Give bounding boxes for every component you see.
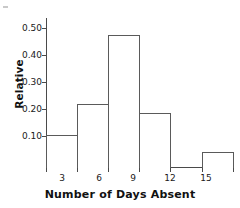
histogram-bar xyxy=(77,104,109,168)
y-tick-label: 0.50 xyxy=(16,24,42,33)
x-tick-label-group: 3 6 9 12 15 xyxy=(46,173,234,187)
plot-area xyxy=(46,18,234,168)
y-tick-mark xyxy=(42,55,46,56)
histogram-bar xyxy=(46,135,78,168)
y-tick-mark xyxy=(42,109,46,110)
x-tick-label: 12 xyxy=(160,173,180,183)
histogram-bar xyxy=(202,152,234,168)
y-tick-label: 0.40 xyxy=(16,51,42,60)
y-tick-label-group: 0.50 0.40 0.30 0.20 0.10 xyxy=(14,0,42,208)
x-tick-mark xyxy=(170,168,171,172)
y-tick-mark xyxy=(42,82,46,83)
x-tick-label: 9 xyxy=(123,173,143,183)
x-tick-mark xyxy=(77,168,78,172)
y-tick-label: 0.30 xyxy=(16,78,42,87)
x-tick-label: 15 xyxy=(196,173,216,183)
histogram-bar xyxy=(139,113,171,168)
y-tick-label: 0.10 xyxy=(16,132,42,141)
x-tick-mark xyxy=(108,168,109,172)
x-axis-title: Number of Days Absent xyxy=(0,188,240,201)
histogram-screenshot: Relative 0.50 0.40 0.30 0.20 0.10 xyxy=(0,0,240,208)
x-tick-mark xyxy=(139,168,140,172)
y-tick-label: 0.20 xyxy=(16,105,42,114)
x-tick-mark xyxy=(233,168,234,172)
x-tick-mark xyxy=(202,168,203,172)
y-tick-mark xyxy=(42,28,46,29)
x-tick-label: 6 xyxy=(89,173,109,183)
x-tick-mark xyxy=(46,168,47,172)
x-tick-label: 3 xyxy=(52,173,72,183)
crop-mark xyxy=(3,6,8,8)
histogram-bar xyxy=(108,35,140,168)
